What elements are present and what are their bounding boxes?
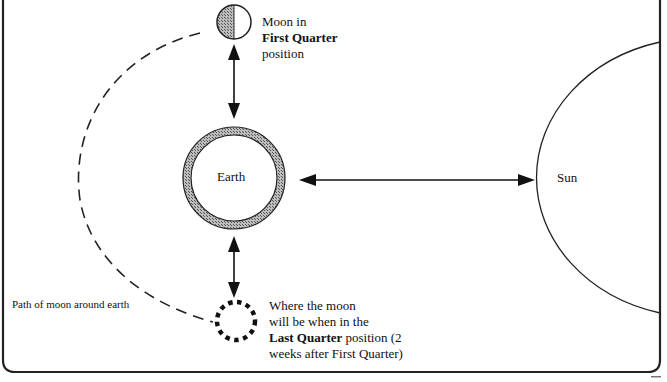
sun [536,42,660,313]
last-quarter-label-bold: Last Quarter [269,330,342,345]
first-quarter-label: Moon in First Quarter position [262,14,337,62]
last-quarter-label-line3: position (2 [342,330,401,345]
moon-earth-arrow-top [228,44,240,119]
first-quarter-label-line1: Moon in [262,14,337,30]
last-quarter-label: Where the moon will be when in the Last … [269,298,403,362]
last-quarter-moon [217,302,255,340]
last-quarter-label-line1: Where the moon [269,298,403,314]
first-quarter-moon [217,5,251,39]
last-quarter-label-line2: will be when in the [269,314,403,330]
earth-sun-arrow [299,174,535,186]
sun-label: Sun [557,171,577,185]
moon-earth-arrow-bottom [228,236,240,298]
earth-label: Earth [217,170,245,184]
corner-mark [651,376,661,378]
first-quarter-label-bold: First Quarter [262,30,337,45]
orbit-path-label: Path of moon around earth [12,297,129,311]
last-quarter-label-line4: weeks after First Quarter) [269,346,403,362]
first-quarter-label-line3: position [262,46,337,62]
